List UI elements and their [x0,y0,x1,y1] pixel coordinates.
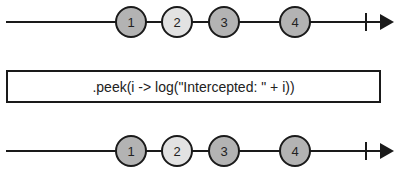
input-stream-timeline: 1 2 3 4 [0,0,400,44]
marble-3: 3 [209,136,239,166]
marble-4: 4 [280,7,310,37]
marble-1: 1 [116,7,146,37]
input-stream-svg: 1 2 3 4 [0,0,400,44]
marble-label: 2 [173,15,180,30]
marble-label: 4 [291,144,298,159]
marble-label: 1 [127,15,134,30]
marble-label: 4 [291,15,298,30]
arrow-head-icon [380,143,394,159]
marble-label: 3 [220,15,227,30]
marble-label: 2 [173,144,180,159]
marble-3: 3 [209,7,239,37]
marble-label: 1 [127,144,134,159]
operator-box: .peek(i -> log("Intercepted: " + i)) [6,70,381,103]
arrow-head-icon [380,14,394,30]
output-stream-svg: 1 2 3 4 [0,129,400,173]
marble-1: 1 [116,136,146,166]
marble-2: 2 [162,136,192,166]
marble-label: 3 [220,144,227,159]
output-stream-timeline: 1 2 3 4 [0,129,400,173]
operator-label: .peek(i -> log("Intercepted: " + i)) [92,79,294,95]
marble-4: 4 [280,136,310,166]
marble-2: 2 [162,7,192,37]
